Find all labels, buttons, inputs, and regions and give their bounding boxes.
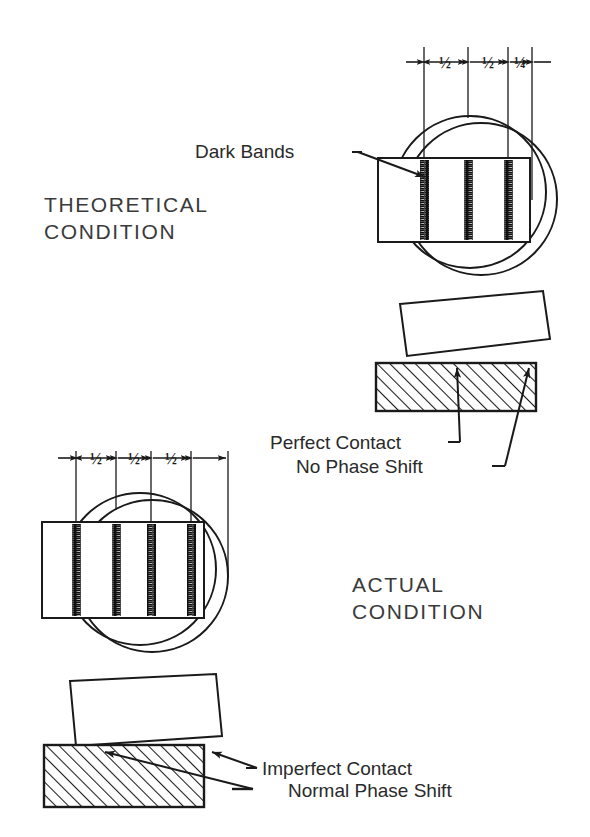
actual-specimen-window [42,522,204,618]
dark-band [464,160,473,240]
dark-band [112,524,121,616]
dark-band [504,160,513,240]
dark-band [72,524,81,616]
imperfect-contact-label: Imperfect Contact [262,758,413,779]
theoretical-dim-2: ½ [482,54,494,71]
no-phase-shift-label: No Phase Shift [296,456,423,477]
theoretical-base-block [376,363,536,411]
actual-dim-2: ½ [128,450,140,467]
dark-band [147,524,156,616]
theoretical-heading-line2: CONDITION [44,220,176,243]
actual-optical-flat [70,674,222,746]
theoretical-heading-line1: THEORETICAL [44,193,209,216]
dark-band [187,524,196,616]
actual-dim-1: ½ [90,450,102,467]
optical-flat-figure: ½ ½ ¼ Dark Bands THEORETICAL CONDITION [0,0,590,837]
actual-base-block [44,745,204,807]
theoretical-dim-1: ½ [439,54,451,71]
actual-dim-3: ½ [165,450,177,467]
dark-bands-label: Dark Bands [195,141,294,162]
perfect-contact-label: Perfect Contact [270,432,402,453]
actual-heading-line2: CONDITION [352,600,484,623]
normal-phase-shift-label: Normal Phase Shift [288,780,452,801]
actual-heading-line1: ACTUAL [352,573,444,596]
theoretical-dim-3: ¼ [514,54,526,71]
dark-band [420,160,429,240]
